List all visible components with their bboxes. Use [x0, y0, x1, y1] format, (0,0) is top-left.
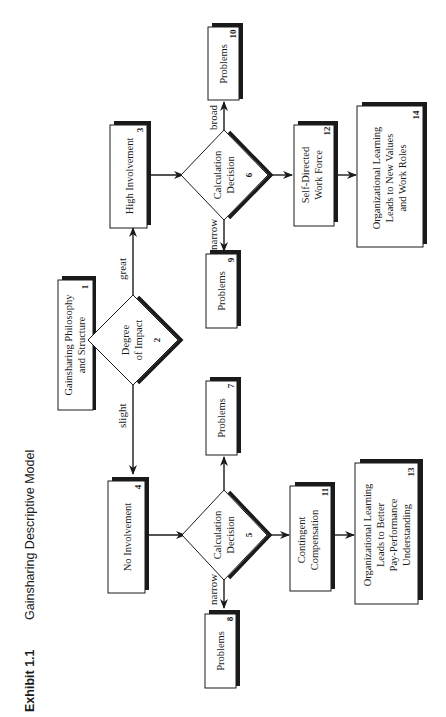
node-2-number: 2: [152, 337, 162, 342]
node-4-number: 4: [133, 484, 143, 489]
node-11-number: 11: [320, 487, 330, 496]
node-13-box: Organizational Learning Leads to Better …: [355, 459, 423, 604]
node-1-line-1: Gainsharing Philosophy: [63, 294, 74, 396]
node-11-line-1: Contingent: [296, 517, 307, 564]
edge-label-broad-6: broad: [207, 104, 219, 130]
node-11-line-2: Compensation: [309, 509, 320, 570]
node-1-line-2: and Structure: [76, 317, 87, 374]
node-14-line-2: Leads to New Values: [384, 134, 395, 223]
node-7-number: 7: [226, 383, 236, 388]
node-5-diamond: Calculation Decision 5: [182, 490, 270, 580]
node-2-line-2: of Impact: [133, 320, 144, 361]
node-7-line-1: Problems: [216, 398, 227, 438]
node-8-box: Problems 8: [205, 610, 240, 688]
edge-label-narrow-6: narrow: [207, 219, 219, 250]
exhibit-title: Gainsharing Descriptive Model: [23, 450, 37, 620]
node-1-number: 1: [80, 284, 90, 289]
node-14-number: 14: [411, 110, 421, 120]
edge-label-slight: slight: [116, 404, 128, 428]
node-8-number: 8: [225, 616, 235, 621]
exhibit-caption: Exhibit 1.1 Gainsharing Descriptive Mode…: [23, 450, 37, 712]
node-13-line-2: Leads to Better: [375, 502, 386, 567]
node-12-box: Self-Directed Work Force 12: [294, 121, 338, 226]
node-12-number: 12: [322, 126, 332, 136]
node-6-diamond: Calculation Decision 6: [181, 130, 271, 220]
node-11-box: Contingent Compensation 11: [290, 482, 335, 591]
node-3-line-1: High Involvement: [124, 138, 135, 215]
node-9-line-1: Problems: [216, 271, 227, 311]
node-12-line-1: Self-Directed: [300, 146, 311, 203]
node-13-line-4: Understanding: [401, 503, 412, 566]
node-2-diamond: Degree of Impact 2: [88, 295, 181, 385]
node-6-number: 6: [244, 172, 254, 177]
node-3-number: 3: [135, 127, 145, 132]
node-14-box: Organizational Learning Leads to New Val…: [357, 102, 427, 247]
node-13-number: 13: [406, 467, 416, 477]
edge-label-great: great: [116, 258, 128, 280]
node-12-line-2: Work Force: [313, 150, 324, 200]
node-10-line-1: Problems: [218, 44, 229, 84]
node-10-box: Problems 10: [208, 23, 243, 100]
node-13-line-3: Pay-Performance: [388, 498, 399, 571]
node-14-line-3: and Work Roles: [397, 144, 408, 211]
node-7-box: Problems 7: [206, 377, 241, 455]
node-13-line-1: Organizational Learning: [362, 483, 373, 586]
node-10-number: 10: [228, 29, 238, 39]
node-4-line-1: No Involvement: [122, 503, 133, 572]
diagram-canvas: Exhibit 1.1 Gainsharing Descriptive Mode…: [0, 0, 446, 717]
node-8-line-1: Problems: [215, 631, 226, 671]
node-5-number: 5: [244, 532, 254, 537]
node-2-line-1: Degree: [120, 325, 131, 356]
node-14-line-1: Organizational Learning: [371, 126, 382, 229]
node-6-line-2: Decision: [225, 156, 236, 194]
exhibit-number: Exhibit 1.1: [23, 649, 37, 712]
node-5-line-1: Calculation: [212, 510, 223, 559]
node-9-box: Problems 9: [206, 250, 241, 328]
node-5-line-2: Decision: [225, 516, 236, 554]
node-3-box: High Involvement 3: [110, 121, 151, 228]
node-4-box: No Involvement 4: [108, 477, 149, 593]
node-9-number: 9: [226, 257, 236, 262]
node-6-line-1: Calculation: [212, 150, 223, 199]
edge-label-broad-5: narrow: [207, 574, 219, 605]
